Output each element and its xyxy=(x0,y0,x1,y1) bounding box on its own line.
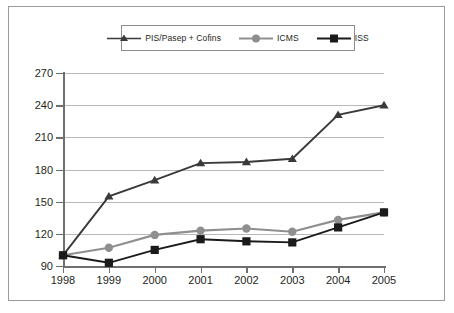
data-point-square xyxy=(288,238,296,246)
data-point-square xyxy=(334,223,342,231)
data-point-square xyxy=(380,208,388,216)
data-point-square xyxy=(105,259,113,267)
data-point-square xyxy=(242,237,250,245)
data-point-square xyxy=(59,251,67,259)
data-point-square xyxy=(151,246,159,254)
series-layer xyxy=(9,7,446,302)
data-point-circle xyxy=(334,216,342,224)
series-icms xyxy=(59,208,388,259)
data-point-circle xyxy=(242,224,250,232)
data-point-circle xyxy=(288,227,296,235)
data-point-triangle xyxy=(379,101,388,109)
series-line xyxy=(63,105,384,255)
data-point-circle xyxy=(105,244,113,252)
data-point-circle xyxy=(151,231,159,239)
series-pis-pasep-cofins xyxy=(58,101,388,259)
data-point-square xyxy=(196,235,204,243)
chart-frame: PIS/Pasep + Cofins ICMS ISS 901201501802… xyxy=(8,6,445,301)
data-point-circle xyxy=(196,226,204,234)
